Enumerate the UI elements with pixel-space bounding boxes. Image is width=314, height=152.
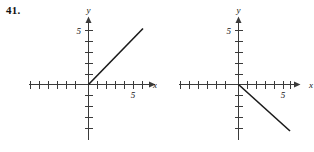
y-axis-title-left: y	[86, 5, 91, 15]
coordinate-plane-left: 5 5 x y	[0, 0, 157, 152]
x-tick-label-5-left: 5	[131, 90, 136, 100]
y-axis-arrow-left	[86, 17, 92, 24]
graph-panel-right: 5 5 x y	[157, 0, 314, 152]
y-axis-title-right: y	[236, 5, 241, 15]
x-axis-arrow-right	[294, 82, 301, 88]
coordinate-plane-right: 5 5 x y	[157, 0, 314, 152]
y-axis-arrow-right	[236, 17, 242, 24]
y-tick-label-5-right: 5	[227, 26, 232, 36]
graph-panel-left: 5 5 x y	[0, 0, 157, 152]
x-axis-title-right: x	[308, 80, 313, 90]
plot-line-left	[89, 29, 144, 85]
y-tick-label-5-left: 5	[77, 26, 82, 36]
figure-root: 41.	[0, 0, 314, 152]
x-tick-label-5-right: 5	[281, 90, 286, 100]
